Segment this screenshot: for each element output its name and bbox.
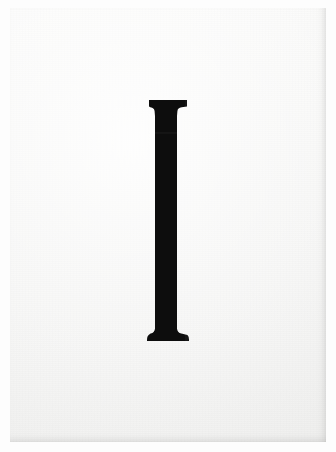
- paper-grain-texture: [10, 8, 326, 442]
- image-canvas: [0, 0, 336, 452]
- paper-sheet: [10, 8, 326, 442]
- paper-lighting-vignette: [10, 8, 326, 442]
- paper-edge-shadow: [10, 8, 326, 442]
